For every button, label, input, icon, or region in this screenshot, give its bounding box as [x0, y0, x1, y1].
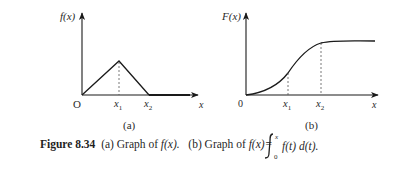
- figure-number: Figure 8.34: [40, 138, 95, 150]
- panel-b: F(x) 0 x1 x2 x (b): [221, 10, 378, 132]
- panel-b-tick-x1: x1: [282, 98, 292, 112]
- panel-b-origin-label: 0: [238, 98, 243, 109]
- panel-a-label: (a): [123, 119, 136, 132]
- panel-b-x-axis-label: x: [371, 99, 377, 110]
- integral-upper-limit: x: [274, 133, 279, 141]
- panel-a-y-axis-label: f(x): [60, 10, 76, 23]
- panel-a-triangle-function: [82, 61, 149, 95]
- panel-a: f(x) O x1 x2 x (a): [60, 10, 204, 132]
- panel-b-y-axis-label: F(x): [221, 10, 241, 23]
- figure-canvas: f(x) O x1 x2 x (a) F(x) 0 x1 x2 x (b): [0, 0, 403, 179]
- caption-integral: x 0 f(t) d(t).: [262, 131, 342, 161]
- integral-sign-icon: [265, 134, 273, 158]
- figure-caption: Figure 8.34 (a) Graph of f(x). (b) Graph…: [40, 138, 272, 150]
- panel-a-tick-x2: x2: [143, 98, 153, 112]
- panel-a-tick-x1: x1: [113, 98, 123, 112]
- caption-part-b: (b) Graph of: [188, 138, 245, 150]
- caption-part-a-function: f(x).: [161, 138, 180, 150]
- caption-part-a: (a) Graph of: [101, 138, 158, 150]
- panel-a-origin-label: O: [73, 98, 81, 110]
- panel-b-tick-x2: x2: [315, 98, 325, 112]
- panel-a-x-axis-label: x: [198, 99, 204, 110]
- panel-b-cumulative-curve: [246, 41, 375, 95]
- integral-integrand: f(t) d(t).: [282, 140, 318, 153]
- integral-lower-limit: 0: [274, 153, 278, 161]
